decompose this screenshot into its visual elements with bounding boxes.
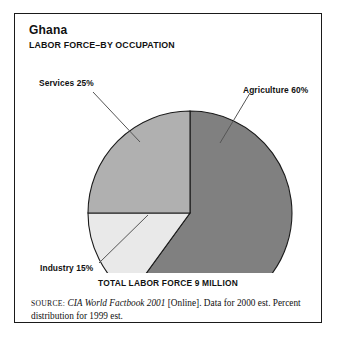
leader-line-services [93, 92, 140, 142]
pie-slice-services [88, 111, 190, 213]
chart-frame: Ghana LABOR FORCE–BY OCCUPATION Services… [14, 13, 322, 323]
pie-label-industry: Industry 15% [40, 263, 93, 273]
page-title: Ghana [29, 23, 67, 37]
pie-label-agriculture: Agriculture 60% [243, 85, 308, 95]
total-labor-force-caption: TOTAL LABOR FORCE 9 MILLION [15, 278, 321, 288]
source-label: SOURCE: [31, 299, 65, 308]
pie-label-services: Services 25% [39, 78, 94, 88]
source-publication: CIA World Factbook 2001 [68, 298, 166, 308]
source-note: SOURCE: CIA World Factbook 2001 [Online]… [31, 297, 309, 322]
